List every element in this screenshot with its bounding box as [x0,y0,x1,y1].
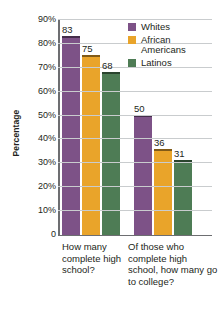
bar [174,160,192,234]
legend-item: Whites [128,22,214,33]
legend-item: African Americans [128,35,214,56]
bar-value-label: 83 [62,25,73,35]
legend-color-swatch [128,59,136,67]
bar [82,55,100,234]
legend: WhitesAfrican AmericansLatinos [128,22,214,70]
y-axis-line [58,19,60,236]
y-tick-label: 20% [38,182,56,191]
x-category-label: How many complete high school? [62,241,128,276]
y-tick-label: 30% [38,158,56,167]
bar-cap [62,36,80,38]
gridline [58,115,212,116]
bar-cap [102,72,120,74]
x-category-label: Of those who complete high school, how m… [128,241,218,287]
legend-color-swatch [128,23,136,31]
y-tick-label: 80% [38,38,56,47]
legend-color-swatch [128,36,136,44]
bar-value-label: 50 [134,104,145,114]
bar-value-label: 68 [102,61,113,71]
x-axis-baseline [58,235,212,237]
gridline [58,186,212,187]
y-tick-label: 10% [38,206,56,215]
y-tick-label: 70% [38,62,56,71]
bar [134,115,152,234]
bar-value-label: 31 [174,149,185,159]
y-tick-label: 0 [51,230,56,239]
bar-value-label: 36 [154,138,165,148]
y-tick-label: 50% [38,110,56,119]
y-tick-label: 40% [38,134,56,143]
legend-label: Latinos [141,58,172,69]
bar-value-label: 75 [82,44,93,54]
bar-chart: Percentage 90%80%70%60%50%40%30%20%10%0 … [0,0,218,312]
legend-label: African Americans [141,35,214,56]
bar-cap [154,149,172,151]
x-axis-category-labels: How many complete high school? Of those … [58,241,218,311]
y-tick-label: 60% [38,86,56,95]
gridline [58,19,212,20]
gridline [58,162,212,163]
legend-label: Whites [141,22,170,33]
y-axis-tick-labels: 90%80%70%60%50%40%30%20%10%0 [18,15,58,240]
gridline [58,210,212,211]
gridline [58,91,212,92]
y-tick-label: 90% [38,15,56,24]
legend-item: Latinos [128,58,214,69]
gridline [58,138,212,139]
bar-cap [82,55,100,57]
